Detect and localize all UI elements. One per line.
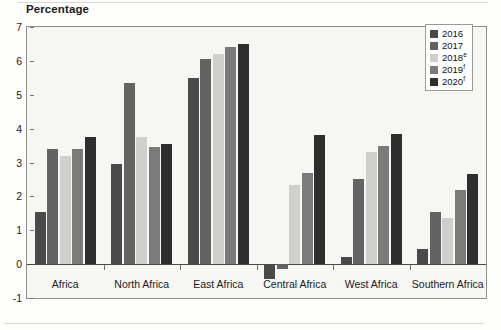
x-axis-group-tick bbox=[257, 265, 258, 270]
x-axis-label: East Africa bbox=[180, 278, 257, 290]
x-axis-label: North Africa bbox=[104, 278, 181, 290]
bar bbox=[353, 179, 364, 264]
legend-label: 2016 bbox=[442, 28, 463, 39]
scan-artifact-bottom bbox=[4, 323, 484, 324]
legend-item[interactable]: 2017 bbox=[430, 40, 467, 51]
x-axis-label: Southern Africa bbox=[410, 278, 487, 290]
bar bbox=[238, 44, 249, 264]
bar bbox=[149, 147, 160, 264]
bar bbox=[200, 59, 211, 264]
legend-swatch-icon bbox=[430, 54, 438, 62]
bar bbox=[417, 249, 428, 264]
bar bbox=[47, 149, 58, 264]
bar bbox=[264, 264, 275, 279]
plot-area bbox=[27, 27, 486, 298]
legend-swatch-icon bbox=[430, 42, 438, 50]
bar bbox=[72, 149, 83, 264]
legend-item[interactable]: 2016 bbox=[430, 28, 467, 39]
legend-footnote-marker: f bbox=[463, 75, 465, 82]
y-axis-tick-label: 3 bbox=[8, 157, 22, 169]
bar bbox=[136, 137, 147, 264]
y-axis-tick-label: 2 bbox=[8, 190, 22, 202]
bar bbox=[378, 146, 389, 265]
legend-label: 2018e bbox=[442, 51, 467, 63]
bar bbox=[391, 134, 402, 264]
chart-legend: 201620172018e2019f2020f bbox=[425, 24, 473, 91]
bar bbox=[467, 174, 478, 264]
bar bbox=[35, 212, 46, 265]
x-axis-group-tick bbox=[180, 265, 181, 270]
bar bbox=[430, 212, 441, 265]
bar bbox=[277, 264, 288, 269]
legend-swatch-icon bbox=[430, 66, 438, 74]
bar bbox=[455, 190, 466, 265]
bar bbox=[111, 164, 122, 264]
legend-swatch-icon bbox=[430, 30, 438, 38]
x-axis-group-tick bbox=[333, 265, 334, 270]
y-axis-tick-label: 6 bbox=[8, 55, 22, 67]
bar-chart: Percentage -101234567 AfricaNorth Africa… bbox=[0, 0, 501, 330]
bar bbox=[314, 135, 325, 264]
x-axis-group-tick bbox=[410, 265, 411, 270]
y-axis-tick bbox=[30, 298, 34, 299]
bar bbox=[85, 137, 96, 264]
legend-item[interactable]: 2020f bbox=[430, 76, 467, 87]
bars-layer bbox=[27, 27, 486, 298]
bar bbox=[188, 78, 199, 264]
bar bbox=[225, 47, 236, 264]
bar bbox=[302, 173, 313, 264]
bar bbox=[341, 257, 352, 264]
bar bbox=[289, 185, 300, 265]
bar bbox=[442, 218, 453, 264]
x-axis-group-tick bbox=[104, 265, 105, 270]
bar bbox=[124, 83, 135, 264]
bar bbox=[60, 156, 71, 264]
y-axis-tick-label: 1 bbox=[8, 224, 22, 236]
legend-footnote-marker: f bbox=[463, 63, 465, 70]
legend-item[interactable]: 2019f bbox=[430, 64, 467, 75]
y-axis-tick-label: 7 bbox=[8, 21, 22, 33]
y-axis-title: Percentage bbox=[26, 3, 89, 15]
bar bbox=[161, 144, 172, 264]
bar bbox=[213, 54, 224, 264]
legend-label: 2020f bbox=[442, 75, 465, 87]
y-axis-tick-label: 4 bbox=[8, 123, 22, 135]
y-axis-tick-label: -1 bbox=[8, 292, 22, 304]
x-axis-label: Central Africa bbox=[257, 278, 334, 290]
legend-swatch-icon bbox=[430, 78, 438, 86]
y-axis-tick-label: 0 bbox=[8, 258, 22, 270]
y-axis: -101234567 bbox=[4, 0, 22, 330]
legend-item[interactable]: 2018e bbox=[430, 52, 467, 63]
x-axis-label: Africa bbox=[27, 278, 104, 290]
legend-label: 2017 bbox=[442, 40, 463, 51]
y-axis-tick-label: 5 bbox=[8, 89, 22, 101]
bar bbox=[366, 152, 377, 264]
x-axis-label: West Africa bbox=[333, 278, 410, 290]
legend-footnote-marker: e bbox=[463, 51, 467, 58]
legend-label: 2019f bbox=[442, 63, 465, 75]
